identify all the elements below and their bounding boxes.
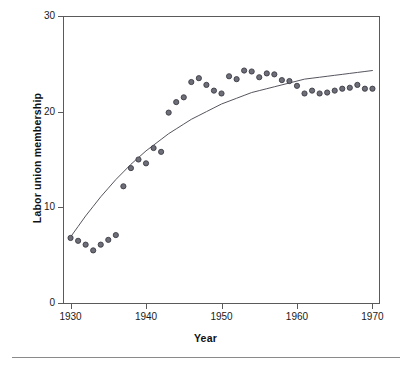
y-tick-30 — [58, 16, 63, 17]
y-tick-label-30: 30 — [30, 10, 55, 21]
x-tick-1940 — [146, 304, 147, 309]
y-tick-10 — [58, 207, 63, 208]
x-tick-label-1940: 1940 — [126, 311, 166, 322]
x-tick-label-1970: 1970 — [352, 311, 392, 322]
y-axis-title: Labor union membership — [31, 58, 43, 258]
plot-area — [63, 16, 380, 304]
y-tick-20 — [58, 112, 63, 113]
x-axis-title: Year — [0, 332, 411, 344]
x-tick-1970 — [372, 304, 373, 309]
x-tick-label-1960: 1960 — [277, 311, 317, 322]
y-tick-0 — [58, 303, 63, 304]
x-tick-1960 — [297, 304, 298, 309]
x-tick-label-1930: 1930 — [51, 311, 91, 322]
x-tick-1950 — [222, 304, 223, 309]
figure-container: 0102030 19301940195019601970 Labor union… — [0, 0, 411, 370]
x-tick-label-1950: 1950 — [202, 311, 242, 322]
footer-divider — [12, 357, 400, 358]
y-tick-label-0: 0 — [30, 297, 55, 308]
x-tick-1930 — [71, 304, 72, 309]
